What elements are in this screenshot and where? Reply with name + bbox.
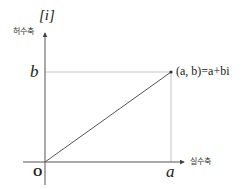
origin-to-point-segment — [45, 72, 171, 162]
real-axis-label: 실수축 — [190, 158, 211, 166]
imaginary-axis-label: 허수축 — [13, 28, 34, 36]
origin-label: O — [33, 166, 42, 178]
x-value-label: a — [166, 163, 175, 180]
complex-plane-diagram: [i] 허수축 b O a 실수축 (a, b)=a+bi — [0, 0, 252, 189]
diagram-canvas — [0, 0, 252, 189]
y-value-label: b — [30, 63, 39, 80]
point-label: (a, b)=a+bi — [176, 65, 230, 77]
point-marker — [169, 70, 172, 73]
imaginary-unit-label: [i] — [39, 8, 55, 23]
